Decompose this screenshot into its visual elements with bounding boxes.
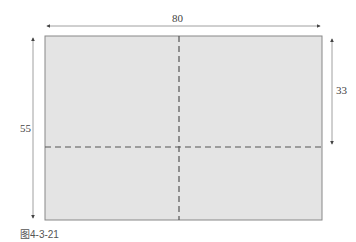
panel-rectangle <box>45 36 322 220</box>
left-height-label: 55 <box>20 122 31 134</box>
width-label: 80 <box>172 12 183 24</box>
figure-caption: 图4-3-21 <box>20 226 59 241</box>
right-height-label: 33 <box>336 84 347 96</box>
diagram-canvas <box>0 0 356 242</box>
